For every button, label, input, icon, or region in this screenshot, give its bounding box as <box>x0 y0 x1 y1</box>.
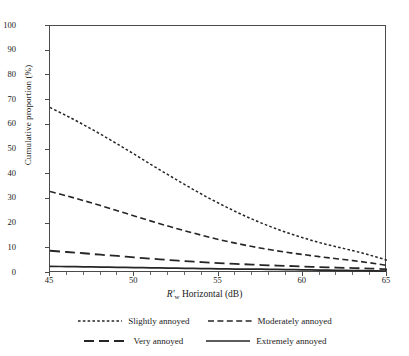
x-tick-label: 45 <box>34 276 64 285</box>
x-tick-minor <box>201 272 202 275</box>
y-tick-label: 30 <box>0 193 16 202</box>
x-tick-minor <box>83 272 84 275</box>
legend-label: Moderately annoyed <box>258 316 332 326</box>
x-tick-minor <box>369 272 370 275</box>
y-tick-label: 100 <box>0 21 16 30</box>
legend-item[interactable]: Extremely annoyed <box>205 336 326 346</box>
y-tick-label: 10 <box>0 243 16 252</box>
x-tick-minor <box>352 272 353 275</box>
legend-line-swatch <box>205 337 251 345</box>
legend-line-swatch <box>207 317 253 325</box>
x-tick-minor <box>167 272 168 275</box>
legend-label: Slightly annoyed <box>128 316 189 326</box>
chart-legend: Slightly annoyedModerately annoyed Very … <box>0 311 409 351</box>
x-tick-label: 55 <box>203 276 233 285</box>
y-axis-title: Cumulative proportion (%) <box>23 35 33 195</box>
y-tick-label: 20 <box>0 218 16 227</box>
legend-label: Very annoyed <box>134 336 184 346</box>
y-tick-label: 90 <box>0 45 16 54</box>
x-tick-mark <box>133 272 134 276</box>
legend-row: Slightly annoyedModerately annoyed <box>0 311 409 331</box>
x-tick-minor <box>335 272 336 275</box>
x-tick-minor <box>150 272 151 275</box>
x-tick-minor <box>100 272 101 275</box>
y-tick-label: 40 <box>0 169 16 178</box>
x-tick-minor <box>285 272 286 275</box>
series-line <box>50 108 387 261</box>
x-tick-minor <box>184 272 185 275</box>
legend-line-swatch <box>83 337 129 345</box>
curve-layer <box>50 26 387 273</box>
x-tick-minor <box>234 272 235 275</box>
x-axis-rest: Horizontal (dB) <box>180 289 243 299</box>
x-tick-mark <box>218 272 219 276</box>
x-tick-mark <box>386 272 387 276</box>
x-tick-minor <box>319 272 320 275</box>
x-axis-title: R′w Horizontal (dB) <box>0 289 409 301</box>
x-tick-minor <box>116 272 117 275</box>
x-tick-label: 65 <box>371 276 401 285</box>
legend-line-swatch <box>77 317 123 325</box>
x-tick-label: 50 <box>118 276 148 285</box>
legend-item[interactable]: Very annoyed <box>83 336 184 346</box>
legend-item[interactable]: Slightly annoyed <box>77 316 189 326</box>
plot-area <box>49 25 386 272</box>
x-tick-minor <box>268 272 269 275</box>
x-tick-label: 60 <box>287 276 317 285</box>
x-tick-minor <box>66 272 67 275</box>
legend-label: Extremely annoyed <box>256 336 326 346</box>
x-tick-minor <box>251 272 252 275</box>
y-tick-label: 80 <box>0 70 16 79</box>
x-axis-symbol: R′ <box>167 289 175 299</box>
y-tick-label: 0 <box>0 268 16 277</box>
chart-figure: Cumulative proportion (%) 01020304050607… <box>0 0 409 356</box>
legend-item[interactable]: Moderately annoyed <box>207 316 332 326</box>
legend-row: Very annoyedExtremely annoyed <box>0 331 409 351</box>
x-tick-mark <box>302 272 303 276</box>
x-tick-mark <box>49 272 50 276</box>
y-tick-label: 50 <box>0 144 16 153</box>
y-tick-label: 60 <box>0 119 16 128</box>
y-tick-label: 70 <box>0 95 16 104</box>
